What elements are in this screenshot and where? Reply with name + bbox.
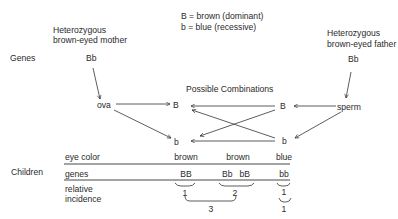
col3-eye-color: blue <box>276 152 292 162</box>
arrow-fB-to-mb <box>200 110 275 136</box>
legend-recessive: b = blue (recessive) <box>181 22 256 32</box>
father-gamete-sperm: sperm <box>337 102 361 112</box>
col1-eye-color: brown <box>174 152 197 162</box>
mother-gamete-ova: ova <box>97 100 111 110</box>
brace-bb <box>277 183 290 186</box>
bracket-brown-total <box>185 196 236 201</box>
header-relative: relative <box>65 184 93 194</box>
arrow-sperm-to-b <box>295 112 341 138</box>
row-label-children: Children <box>11 167 43 177</box>
ratio-brown-total: 3 <box>209 204 214 214</box>
brace-Bb-bB <box>219 183 254 186</box>
legend-dominant: B = brown (dominant) <box>181 11 263 21</box>
col1-genes: BB <box>180 169 191 179</box>
col1-incidence: 1 <box>183 188 188 198</box>
ratio-blue-total: 1 <box>282 204 287 214</box>
mother-allele-B: B <box>173 100 179 110</box>
father-genes: Bb <box>348 54 359 64</box>
col3-genes: bb <box>279 169 289 179</box>
brace-BB <box>175 183 195 186</box>
father-label-line1: Heterozygous <box>327 28 380 38</box>
row-label-genes: Genes <box>10 53 35 63</box>
arrow-mother-to-ova <box>93 68 100 99</box>
arrow-ova-to-b <box>114 110 171 138</box>
col2-genes: Bb bB <box>222 169 250 179</box>
combinations-title: Possible Combinations <box>186 84 273 94</box>
father-label-line2: brown-eyed father <box>327 39 396 49</box>
bracket-blue-total <box>279 198 291 202</box>
header-genes: genes <box>65 169 88 179</box>
mother-label-line2: brown-eyed mother <box>53 35 127 45</box>
mother-genes: Bb <box>86 53 97 63</box>
header-incidence: incidence <box>65 194 101 204</box>
father-allele-b: b <box>282 136 287 146</box>
col2-eye-color: brown <box>226 152 249 162</box>
header-eye-color: eye color <box>65 152 100 162</box>
col2-incidence: 2 <box>233 188 238 198</box>
col3-incidence: 1 <box>282 187 287 197</box>
father-allele-B: B <box>280 101 286 111</box>
mother-allele-b: b <box>174 137 179 147</box>
arrow-father-to-sperm <box>346 72 351 98</box>
mother-label-line1: Heterozygous <box>53 25 106 35</box>
